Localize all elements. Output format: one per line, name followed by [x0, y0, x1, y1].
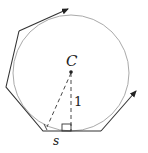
dashed-line-to-vertex — [47, 73, 71, 127]
right-angle-marker — [62, 124, 71, 131]
polygon-edges — [6, 31, 101, 131]
radius-label: 1 — [74, 94, 82, 109]
inscribed-circle-diagram: C 1 s — [0, 0, 148, 153]
center-label: C — [66, 52, 78, 70]
arrow-top-edge — [19, 9, 68, 31]
arrow-right-edge — [101, 91, 136, 131]
center-point — [69, 70, 73, 74]
side-label: s — [53, 134, 59, 148]
